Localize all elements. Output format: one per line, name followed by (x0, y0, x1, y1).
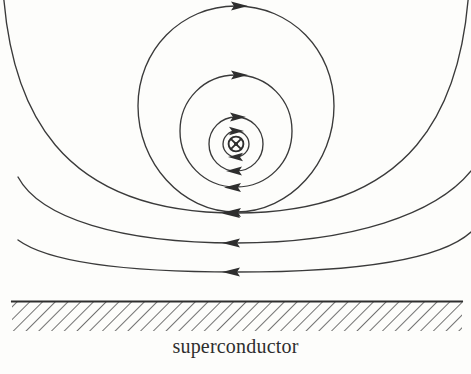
vortex-superconductor-figure: superconductor (0, 0, 471, 374)
arrowhead-right-loop1 (229, 127, 244, 135)
open-arc-outermost (2, 0, 470, 213)
field-line-diagram (0, 0, 471, 374)
vortex-core-into-page-icon (229, 137, 244, 152)
closed-loop-4 (138, 6, 334, 212)
arrowheads-rightward (229, 2, 248, 136)
arrowhead-left-loop1 (228, 153, 243, 161)
slab-hatch-fill (12, 301, 462, 331)
open-arc-lowest (18, 232, 471, 272)
open-arc-middle (18, 171, 471, 243)
closed-field-loops (138, 6, 334, 212)
vortex-core-center-dot (234, 142, 238, 146)
superconductor-slab (12, 301, 462, 331)
